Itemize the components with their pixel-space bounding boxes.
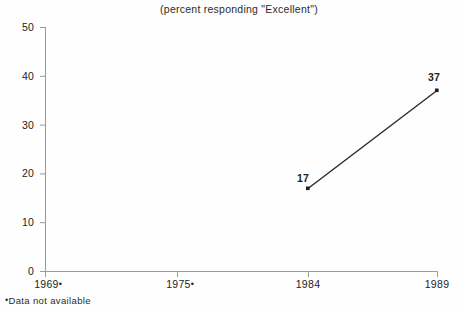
x-tick-label-1975: 1975• bbox=[166, 278, 194, 290]
y-tick-label-0: 0 bbox=[4, 265, 34, 277]
x-tick-year-1989: 1989 bbox=[425, 278, 450, 290]
plot-area bbox=[0, 0, 464, 311]
footnote: •Data not available bbox=[5, 295, 91, 306]
data-label-1989: 37 bbox=[428, 71, 440, 83]
y-tick-label-10: 10 bbox=[4, 216, 34, 228]
data-line-series-1 bbox=[308, 91, 437, 189]
missing-data-asterisk-1969: • bbox=[59, 279, 62, 289]
x-tick-year-1969: 1969 bbox=[34, 278, 59, 290]
x-tick-year-1975: 1975 bbox=[166, 278, 191, 290]
data-label-1984: 17 bbox=[297, 172, 309, 184]
chart-container: (percent responding "Excellent") bbox=[0, 0, 464, 311]
y-axis-ticks bbox=[40, 28, 45, 272]
footnote-text: Data not available bbox=[9, 295, 91, 306]
y-tick-label-30: 30 bbox=[4, 119, 34, 131]
x-tick-label-1969: 1969• bbox=[34, 278, 62, 290]
y-tick-label-40: 40 bbox=[4, 70, 34, 82]
x-tick-year-1984: 1984 bbox=[296, 278, 321, 290]
missing-data-asterisk-1975: • bbox=[191, 279, 194, 289]
y-tick-label-20: 20 bbox=[4, 167, 34, 179]
data-point-marker-1989 bbox=[435, 89, 439, 93]
x-tick-label-1989: 1989 bbox=[425, 278, 450, 290]
y-tick-label-50: 50 bbox=[4, 21, 34, 33]
x-tick-label-1984: 1984 bbox=[296, 278, 321, 290]
data-point-marker-1984 bbox=[306, 187, 310, 191]
x-axis-ticks bbox=[46, 272, 438, 278]
